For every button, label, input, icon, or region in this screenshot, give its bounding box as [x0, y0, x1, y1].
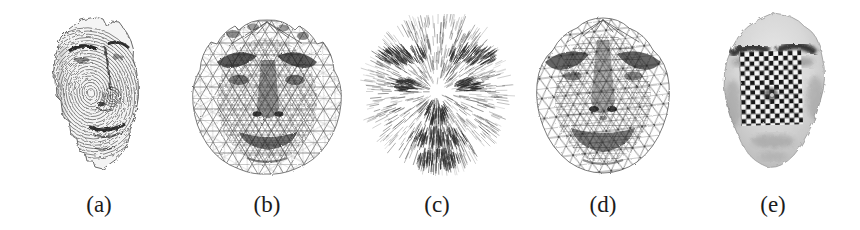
panel-d: (d) [522, 0, 684, 230]
needle-normals-face-image [359, 14, 515, 176]
panel-b: (b) [184, 0, 350, 230]
checkerboard-patch [739, 50, 803, 126]
left-eye-shape [564, 72, 582, 81]
panel-a-label: (a) [36, 192, 162, 218]
right-eye-shape [285, 75, 305, 85]
panel-c: (c) [356, 0, 518, 230]
panel-e: (e) [704, 0, 842, 230]
radial-needle-strokes [361, 14, 515, 176]
left-eye-shape [229, 75, 249, 85]
nostril-shape [97, 102, 105, 107]
triangulated-mesh-face-image [187, 10, 347, 176]
figure-canvas: (a) [0, 0, 860, 230]
right-eye-shape [624, 72, 642, 81]
panel-a: (a) [36, 0, 162, 230]
refined-mesh-face-image [525, 10, 681, 176]
panel-e-label: (e) [704, 192, 842, 218]
range-scan-face-image [43, 7, 155, 177]
panel-d-label: (d) [522, 192, 684, 218]
nose-shape [257, 60, 279, 118]
panel-c-label: (c) [356, 192, 518, 218]
panel-b-label: (b) [184, 192, 350, 218]
shaded-face-checkerboard-image [707, 8, 839, 172]
